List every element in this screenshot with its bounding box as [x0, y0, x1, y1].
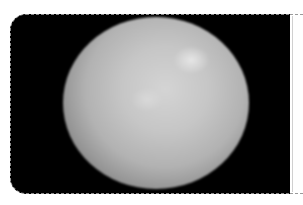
planetary-body: [63, 17, 249, 189]
right-edge-rule: [292, 16, 293, 192]
image-frame: [10, 14, 290, 194]
top-dashed-guide: [290, 14, 303, 15]
bottom-dashed-guide: [290, 193, 303, 194]
image-canvas: [0, 0, 303, 205]
